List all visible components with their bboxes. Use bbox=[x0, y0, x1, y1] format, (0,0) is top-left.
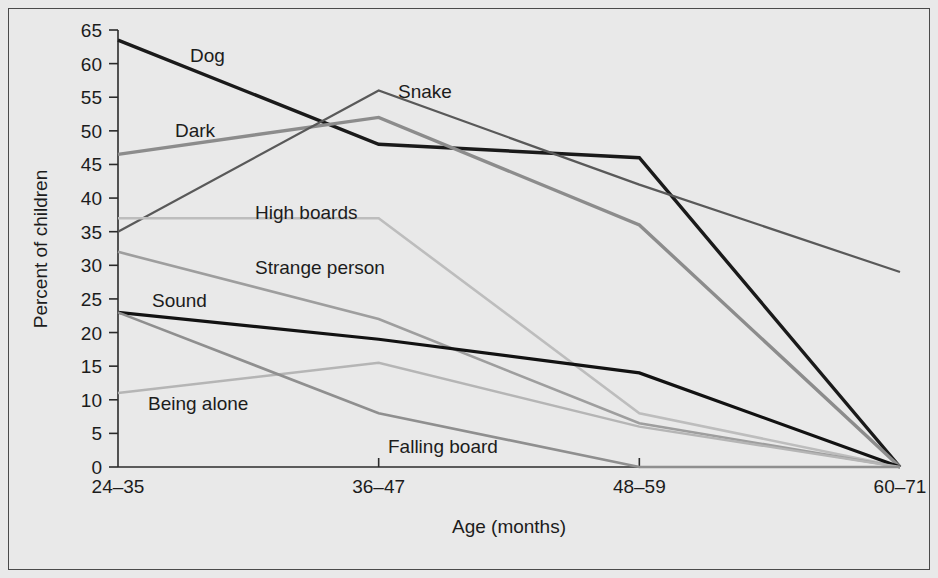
x-tick-label: 48–59 bbox=[613, 476, 666, 497]
y-tick-label: 45 bbox=[81, 154, 102, 175]
series-label-falling-board: Falling board bbox=[388, 436, 498, 457]
y-tick-label: 35 bbox=[81, 222, 102, 243]
y-tick-label: 55 bbox=[81, 87, 102, 108]
x-tick-label: 60–71 bbox=[874, 476, 927, 497]
y-axis-title: Percent of children bbox=[30, 170, 51, 328]
y-tick-label: 50 bbox=[81, 121, 102, 142]
y-tick-label: 65 bbox=[81, 20, 102, 41]
series-line-dark bbox=[118, 117, 900, 467]
series-label-dark: Dark bbox=[175, 120, 216, 141]
x-axis-title: Age (months) bbox=[452, 516, 566, 537]
y-tick-label: 5 bbox=[91, 423, 102, 444]
series-line-being-alone bbox=[118, 363, 900, 467]
x-tick-label: 36–47 bbox=[352, 476, 405, 497]
y-tick-label: 30 bbox=[81, 255, 102, 276]
y-tick-label: 15 bbox=[81, 356, 102, 377]
series-label-snake: Snake bbox=[398, 81, 452, 102]
series-label-strange-person: Strange person bbox=[255, 257, 385, 278]
series-line-high-boards bbox=[118, 218, 900, 467]
y-tick-label: 20 bbox=[81, 323, 102, 344]
y-tick-label: 10 bbox=[81, 390, 102, 411]
y-axis-ticks: 05101520253035404550556065 bbox=[81, 20, 118, 478]
series-label-high-boards: High boards bbox=[255, 202, 357, 223]
series-label-dog: Dog bbox=[190, 45, 225, 66]
series-labels: DogDarkSnakeHigh boardsStrange personSou… bbox=[148, 45, 498, 457]
x-tick-label: 24–35 bbox=[92, 476, 145, 497]
line-chart: 05101520253035404550556065 24–3536–4748–… bbox=[0, 0, 938, 578]
series-line-snake bbox=[118, 91, 900, 273]
figure-root: 05101520253035404550556065 24–3536–4748–… bbox=[0, 0, 938, 578]
y-tick-label: 0 bbox=[91, 457, 102, 478]
x-axis-ticks: 24–3536–4748–5960–71 bbox=[92, 458, 927, 497]
series-label-being-alone: Being alone bbox=[148, 393, 248, 414]
series-label-sound: Sound bbox=[152, 290, 207, 311]
y-tick-label: 40 bbox=[81, 188, 102, 209]
y-tick-label: 25 bbox=[81, 289, 102, 310]
y-tick-label: 60 bbox=[81, 54, 102, 75]
